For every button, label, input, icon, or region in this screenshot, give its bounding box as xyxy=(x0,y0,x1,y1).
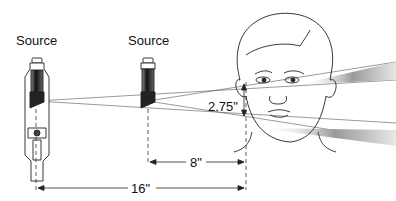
source-left-label: Source xyxy=(16,33,57,48)
height-offset-label: 2.75" xyxy=(208,99,238,114)
cephalometric-source-distance-diagram: Source Source xyxy=(0,0,396,201)
left-xray-source xyxy=(25,58,49,181)
lower-beam-wedge xyxy=(260,128,396,146)
long-distance-label: 16" xyxy=(131,181,150,196)
short-distance-label: 8" xyxy=(190,155,202,170)
source-middle-label: Source xyxy=(128,33,169,48)
middle-xray-source xyxy=(141,58,155,108)
